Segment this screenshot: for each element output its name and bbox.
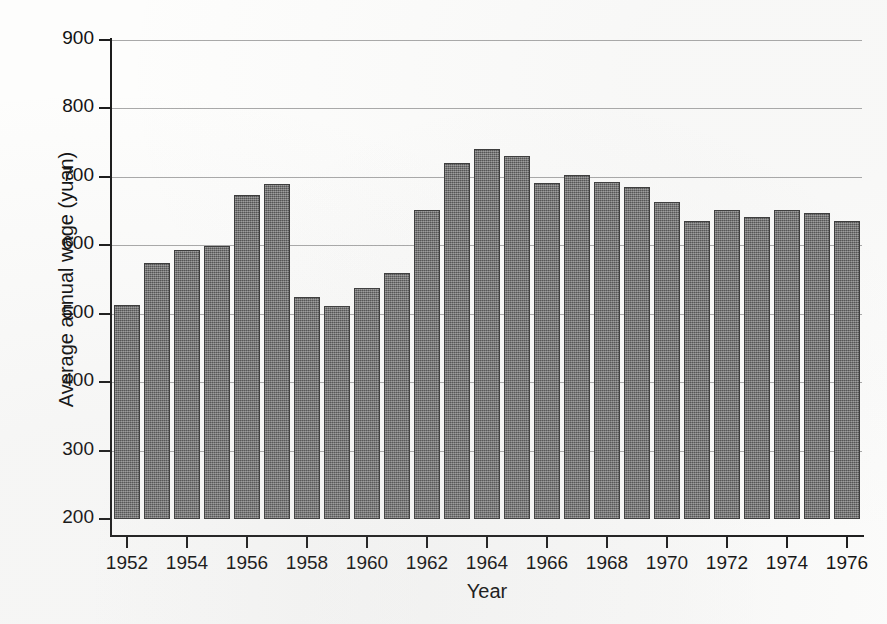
bar-1954: [174, 250, 200, 519]
bar-1961: [384, 273, 410, 519]
x-tick-label-1960: 1960: [335, 552, 399, 574]
x-tick-mark-1954: [186, 537, 188, 548]
bar-1966: [534, 183, 560, 519]
bar-1976: [834, 221, 860, 519]
x-tick-label-1958: 1958: [275, 552, 339, 574]
bar-1957: [264, 184, 290, 519]
gridline-800: [112, 108, 862, 109]
y-tick-label-500: 500: [26, 301, 94, 323]
x-tick-label-1956: 1956: [215, 552, 279, 574]
y-tick-mark-300: [99, 450, 111, 452]
x-tick-mark-1952: [126, 537, 128, 548]
x-tick-mark-1968: [606, 537, 608, 548]
bar-1964: [474, 149, 500, 519]
bar-1969: [624, 187, 650, 519]
x-tick-label-1964: 1964: [455, 552, 519, 574]
x-tick-label-1972: 1972: [695, 552, 759, 574]
x-axis-title: Year: [112, 580, 862, 603]
bar-1973: [744, 217, 770, 520]
y-tick-label-800: 800: [26, 95, 94, 117]
y-tick-label-700: 700: [26, 164, 94, 186]
gridline-900: [112, 40, 862, 41]
y-tick-label-600: 600: [26, 232, 94, 254]
x-tick-label-1976: 1976: [815, 552, 879, 574]
bar-chart-figure: Average annual wage (yuan) 2003004005006…: [0, 0, 887, 624]
x-tick-mark-1956: [246, 537, 248, 548]
bar-1958: [294, 297, 320, 519]
bar-1959: [324, 306, 350, 520]
bar-1975: [804, 213, 830, 519]
x-tick-mark-1974: [786, 537, 788, 548]
bar-1956: [234, 195, 260, 519]
bar-1968: [594, 182, 620, 519]
x-tick-mark-1960: [366, 537, 368, 548]
bar-1971: [684, 221, 710, 519]
bar-1970: [654, 202, 680, 519]
x-tick-mark-1966: [546, 537, 548, 548]
x-tick-label-1970: 1970: [635, 552, 699, 574]
bar-1965: [504, 156, 530, 519]
bar-1960: [354, 288, 380, 519]
bar-1972: [714, 210, 740, 519]
x-tick-mark-1958: [306, 537, 308, 548]
x-tick-label-1954: 1954: [155, 552, 219, 574]
x-tick-label-1974: 1974: [755, 552, 819, 574]
bar-1974: [774, 210, 800, 519]
y-tick-label-400: 400: [26, 369, 94, 391]
y-tick-mark-900: [99, 39, 111, 41]
plot-area: [112, 40, 862, 519]
x-tick-mark-1972: [726, 537, 728, 548]
x-tick-mark-1976: [846, 537, 848, 548]
x-tick-label-1966: 1966: [515, 552, 579, 574]
bar-1955: [204, 246, 230, 519]
y-tick-mark-400: [99, 381, 111, 383]
x-tick-mark-1962: [426, 537, 428, 548]
x-tick-mark-1970: [666, 537, 668, 548]
x-tick-label-1968: 1968: [575, 552, 639, 574]
bar-1967: [564, 175, 590, 519]
x-tick-label-1962: 1962: [395, 552, 459, 574]
y-tick-mark-700: [99, 176, 111, 178]
bar-1952: [114, 305, 140, 519]
x-tick-mark-1964: [486, 537, 488, 548]
y-tick-mark-500: [99, 313, 111, 315]
y-tick-label-200: 200: [26, 506, 94, 528]
y-tick-mark-200: [99, 518, 111, 520]
bar-1962: [414, 210, 440, 519]
bar-1963: [444, 163, 470, 520]
y-tick-label-900: 900: [26, 27, 94, 49]
y-tick-mark-800: [99, 107, 111, 109]
x-tick-label-1952: 1952: [95, 552, 159, 574]
y-tick-label-300: 300: [26, 438, 94, 460]
y-tick-mark-600: [99, 244, 111, 246]
bar-1953: [144, 263, 170, 519]
